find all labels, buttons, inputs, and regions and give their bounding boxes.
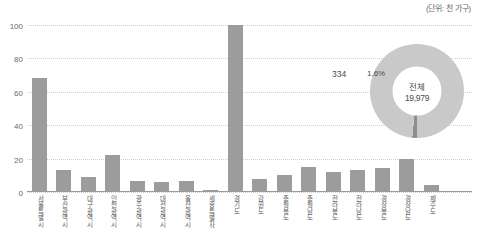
unit-caption: (단위: 천 가구) (426, 2, 471, 13)
x-axis-tick-label: 경상북도 (379, 193, 386, 221)
bar-slot (248, 25, 273, 192)
bar[interactable] (56, 170, 71, 192)
y-axis-tick-label: 80 (14, 55, 23, 64)
donut-chart: 전체 19,979 1.6% 334 (370, 44, 464, 138)
bar[interactable] (252, 179, 267, 192)
x-label-slot: 울산광역시 (174, 193, 199, 227)
x-axis-tick-label: 경기도 (232, 193, 239, 214)
bar-slot (52, 25, 77, 192)
x-axis-tick-label: 광주광역시 (134, 193, 141, 227)
y-axis-tick-label: 40 (14, 122, 23, 131)
x-label-slot: 세종특별자치시 (199, 193, 224, 228)
bar-slot (223, 25, 248, 192)
bar-slot (76, 25, 101, 192)
donut-segment-percent: 1.6% (367, 69, 385, 78)
chart-root: (단위: 천 가구) 020406080100 서울특별시부산광역시대구광역시인… (0, 0, 479, 228)
y-axis-tick-label: 100 (10, 22, 23, 31)
bar[interactable] (277, 175, 292, 192)
bar-slot (150, 25, 175, 192)
bar[interactable] (301, 167, 316, 192)
x-axis-labels: 서울특별시부산광역시대구광역시인천광역시광주광역시대전광역시울산광역시세종특별자… (27, 193, 472, 228)
x-axis-tick-label: 전라북도 (330, 193, 337, 221)
bar[interactable] (105, 155, 120, 192)
x-axis-tick-label: 충청남도 (306, 193, 313, 221)
x-label-slot: 서울특별시 (27, 193, 52, 227)
x-label-slot: 경상북도 (370, 193, 395, 221)
bar[interactable] (399, 159, 414, 192)
x-axis-tick-label: 부산광역시 (61, 193, 68, 227)
x-axis-baseline (27, 191, 472, 192)
donut-segment-value: 334 (332, 69, 346, 79)
x-label-slot: 대구광역시 (76, 193, 101, 227)
bar-slot (297, 25, 322, 192)
y-axis-tick-label: 20 (14, 155, 23, 164)
x-label-slot: 충청북도 (272, 193, 297, 221)
x-label-slot: 전라북도 (321, 193, 346, 221)
bar-slot (125, 25, 150, 192)
bar-slot (321, 25, 346, 192)
x-label-slot: 경기도 (223, 193, 248, 214)
x-label-slot: 광주광역시 (125, 193, 150, 227)
x-label-slot: 충청남도 (297, 193, 322, 221)
bar-slot (27, 25, 52, 192)
bar[interactable] (32, 78, 47, 192)
y-axis-tick-label: 0 (19, 189, 23, 198)
donut-center-value: 19,979 (405, 93, 429, 103)
x-label-slot: 강원도 (248, 193, 273, 214)
y-axis-tick-label: 60 (14, 88, 23, 97)
bar-slot (174, 25, 199, 192)
x-label-slot: 전라남도 (346, 193, 371, 221)
x-axis-tick-label: 대전광역시 (159, 193, 166, 227)
bar[interactable] (81, 177, 96, 192)
x-label-slot: 제주도 (419, 193, 444, 214)
x-axis-tick-label: 세종특별자치시 (208, 193, 215, 228)
x-axis-tick-label: 대구광역시 (85, 193, 92, 227)
bar[interactable] (228, 25, 243, 192)
x-axis-tick-label: 울산광역시 (183, 193, 190, 227)
x-label-slot: 대전광역시 (150, 193, 175, 227)
donut-center-label: 전체 (409, 80, 424, 92)
x-axis-tick-label: 강원도 (257, 193, 264, 214)
x-label-slot: 경상남도 (395, 193, 420, 221)
x-label-slot: 부산광역시 (52, 193, 77, 227)
bar-slot (272, 25, 297, 192)
bar-slot (199, 25, 224, 192)
x-axis-tick-label: 서울특별시 (36, 193, 43, 227)
x-axis-tick-label: 제주도 (428, 193, 435, 214)
x-axis-tick-label: 충청북도 (281, 193, 288, 221)
x-axis-tick-label: 인천광역시 (110, 193, 117, 227)
x-axis-tick-label: 경상남도 (404, 193, 411, 221)
bar-slot (346, 25, 371, 192)
x-label-slot: 인천광역시 (101, 193, 126, 227)
bar-slot (101, 25, 126, 192)
x-axis-tick-label: 전라남도 (355, 193, 362, 221)
bar[interactable] (375, 168, 390, 192)
bar[interactable] (326, 172, 341, 192)
bar[interactable] (350, 170, 365, 192)
donut-center: 전체 19,979 (393, 67, 442, 116)
